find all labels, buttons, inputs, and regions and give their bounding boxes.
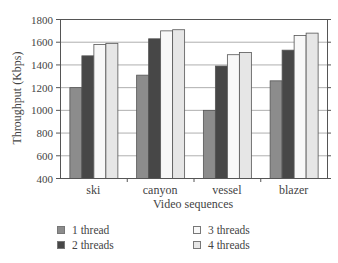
x-category-label: ski	[86, 183, 101, 197]
bar	[173, 30, 185, 179]
y-tick-label: 800	[37, 127, 54, 139]
y-tick-label: 400	[37, 173, 54, 185]
bar	[149, 39, 161, 179]
bar	[82, 56, 94, 179]
legend-swatch-icon	[57, 241, 65, 249]
legend-item-2-threads: 2 threads	[57, 239, 114, 251]
x-category-label: canyon	[143, 183, 178, 197]
bar	[270, 81, 282, 179]
bar	[282, 50, 294, 178]
legend-swatch-icon	[193, 226, 201, 234]
x-category-label: vessel	[212, 183, 242, 197]
legend-label: 4 threads	[208, 239, 250, 251]
bar	[306, 33, 318, 178]
legend-item-1-thread: 1 thread	[57, 224, 109, 236]
legend-label: 2 threads	[72, 239, 114, 251]
legend-label: 3 threads	[208, 224, 250, 236]
y-tick-label: 600	[37, 150, 54, 162]
bar	[106, 43, 118, 178]
y-tick-label: 1200	[31, 82, 54, 94]
bar-chart: 40060080010001200140016001800 skicanyonv…	[0, 0, 338, 263]
legend-label: 1 thread	[72, 224, 109, 236]
legend-item-4-threads: 4 threads	[193, 239, 250, 251]
x-axis-categories: skicanyonvesselblazer	[86, 183, 308, 197]
y-tick-label: 1000	[31, 104, 54, 116]
x-axis-title: Video sequences	[153, 197, 234, 211]
y-axis-title: Throughput (Kbps)	[10, 52, 24, 145]
y-tick-label: 1400	[31, 59, 54, 71]
bar	[94, 44, 106, 178]
legend-swatch-icon	[193, 241, 201, 249]
bar	[239, 52, 251, 178]
bar	[203, 110, 215, 178]
bar	[227, 55, 239, 179]
bar	[215, 66, 227, 178]
bar	[137, 75, 149, 178]
bar	[161, 31, 173, 179]
y-tick-label: 1600	[31, 36, 54, 48]
bar	[70, 88, 82, 179]
legend-swatch-icon	[57, 226, 65, 234]
y-tick-label: 1800	[31, 14, 54, 26]
x-category-label: blazer	[279, 183, 308, 197]
bar	[294, 35, 306, 178]
legend-item-3-threads: 3 threads	[193, 224, 250, 236]
